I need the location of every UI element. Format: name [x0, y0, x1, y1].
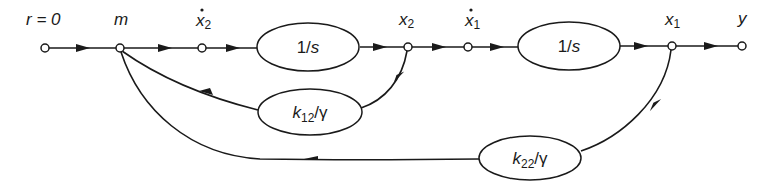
label-x1dot: x1 — [464, 11, 481, 32]
arrow-icon — [634, 42, 648, 50]
svg-text:1/s: 1/s — [558, 37, 581, 56]
svg-text:1/s: 1/s — [297, 38, 320, 57]
arrow-icon — [76, 44, 90, 52]
label-x2dot: x2 — [195, 11, 212, 32]
label-r: r = 0 — [26, 10, 61, 29]
node-x1dot — [464, 43, 472, 51]
forward-path — [49, 42, 738, 52]
block-integrator-1: 1/s — [518, 22, 620, 70]
label-x2: x2 — [398, 10, 415, 31]
label-m: m — [114, 10, 128, 29]
block-integrator-2: 1/s — [257, 23, 359, 71]
arrow-icon — [158, 44, 172, 52]
signal-flow-graph: 1/s 1/s k12/γ k22/γ r = 0 m x2 x2 x1 x1 … — [0, 0, 776, 182]
block-gain-k22: k22/γ — [479, 136, 581, 180]
label-x1: x1 — [664, 10, 681, 31]
block-gain-k12: k12/γ — [258, 89, 362, 135]
dot-mark — [469, 8, 472, 11]
dot-mark — [200, 8, 203, 11]
node-labels: r = 0 m x2 x2 x1 x1 y — [26, 8, 748, 32]
arrow-icon — [226, 44, 240, 52]
node-x1 — [668, 42, 676, 50]
node-r — [41, 44, 49, 52]
node-x2 — [404, 43, 412, 51]
arrow-icon — [704, 42, 718, 50]
arrow-icon — [373, 43, 387, 51]
arrow-icon — [432, 43, 446, 51]
node-x2dot — [198, 44, 206, 52]
arrow-icon — [490, 43, 504, 51]
label-y: y — [737, 9, 748, 28]
node-m — [116, 44, 124, 52]
node-y — [738, 42, 746, 50]
